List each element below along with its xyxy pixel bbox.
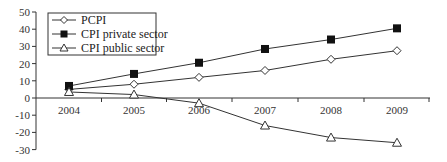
y-tick-label: -10: [15, 109, 30, 121]
y-tick-label: -30: [15, 144, 30, 156]
open-diamond-icon: [327, 55, 335, 63]
y-tick-label: 10: [19, 75, 31, 87]
legend-label: CPI private sector: [81, 27, 168, 41]
y-tick-label: 30: [19, 40, 31, 52]
y-tick-label: 20: [19, 58, 31, 70]
open-triangle-icon: [261, 121, 270, 129]
x-tick-label: 2005: [123, 104, 146, 116]
open-diamond-icon: [393, 47, 401, 55]
open-diamond-icon: [261, 66, 269, 74]
legend: PCPI CPI private sector CPI public secto…: [48, 13, 168, 55]
legend-label: PCPI: [81, 13, 106, 27]
line-chart: 50403020100-10-20-30 2004200520062007200…: [0, 0, 447, 162]
y-tick-label: -20: [15, 126, 30, 138]
filled-square-icon: [327, 36, 335, 44]
open-diamond-icon: [130, 80, 138, 88]
x-tick-label: 2004: [58, 104, 81, 116]
x-axis: 200420052006200720082009: [36, 98, 430, 116]
y-tick-label: 40: [19, 23, 31, 35]
y-tick-label: 50: [19, 6, 31, 18]
y-tick-label: 0: [25, 92, 31, 104]
filled-square-icon: [130, 70, 138, 78]
filled-square-icon: [61, 31, 68, 38]
x-tick-label: 2009: [386, 104, 409, 116]
series-cpi-public-sector: [65, 87, 402, 146]
filled-square-icon: [195, 59, 203, 67]
x-tick-label: 2007: [254, 104, 277, 116]
filled-square-icon: [261, 45, 269, 53]
filled-square-icon: [393, 24, 401, 32]
x-tick-label: 2008: [320, 104, 343, 116]
open-diamond-icon: [195, 73, 203, 81]
legend-label: CPI public sector: [81, 41, 164, 55]
y-axis: 50403020100-10-20-30: [15, 6, 36, 156]
